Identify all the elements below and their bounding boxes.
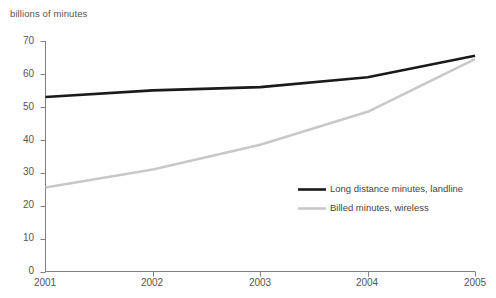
y-tick-label-0: 0 [8,266,34,276]
legend-swatches [298,190,326,209]
legend-label-wireless: Billed minutes, wireless [330,203,429,213]
y-axis-unit-label: billions of minutes [10,8,87,19]
y-tick-label-40: 40 [8,135,34,145]
plot-area [0,0,496,298]
x-axis-ticks [154,272,476,277]
y-axis-ticks [41,42,46,273]
x-tick-label-2003: 2003 [235,278,285,288]
y-tick-label-70: 70 [8,36,34,46]
y-tick-label-20: 20 [8,200,34,210]
y-tick-label-30: 30 [8,167,34,177]
x-tick-label-2005: 2005 [450,278,496,288]
y-tick-label-10: 10 [8,233,34,243]
legend-label-landline: Long distance minutes, landline [330,184,463,194]
x-tick-label-2001: 2001 [20,278,70,288]
data-series-group [46,56,476,188]
series-line-wireless [46,59,476,187]
x-tick-label-2002: 2002 [127,278,177,288]
line-chart: billions of minutes 70 60 50 40 30 20 10… [0,0,496,298]
y-tick-label-50: 50 [8,102,34,112]
x-tick-label-2004: 2004 [342,278,392,288]
y-tick-label-60: 60 [8,69,34,79]
axes [41,41,476,277]
